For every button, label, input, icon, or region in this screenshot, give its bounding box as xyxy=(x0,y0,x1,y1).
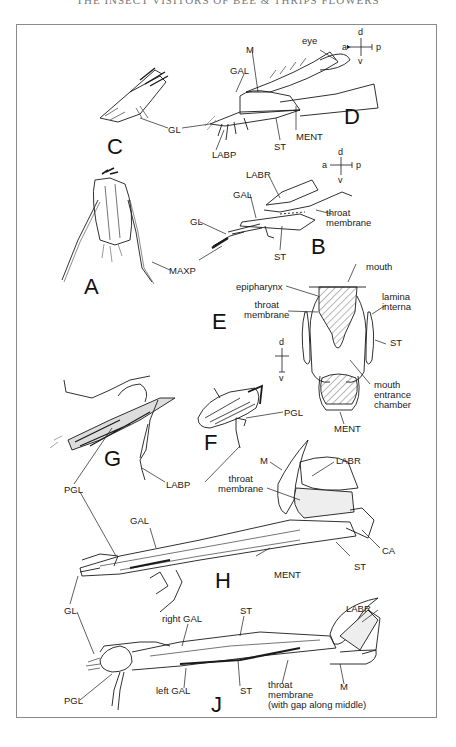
label-b-throat-membrane: throat membrane xyxy=(326,208,371,228)
drawing-c xyxy=(100,68,168,122)
label-h-ca: CA xyxy=(382,546,395,556)
label-d-ment: MENT xyxy=(296,132,323,142)
label-e-throat-membrane: throat membrane xyxy=(244,300,289,320)
panel-letter-d: D xyxy=(344,106,360,128)
label-h-labr: LABR xyxy=(336,456,361,466)
axis-d-e: d xyxy=(279,338,284,347)
label-h-st: ST xyxy=(354,562,366,572)
panel-letter-c: C xyxy=(107,136,123,158)
label-j-pgl: PGL xyxy=(64,696,83,706)
label-a-maxp: MAXP xyxy=(169,266,196,276)
label-d-gal: GAL xyxy=(230,66,249,76)
label-j-st-top: ST xyxy=(240,606,252,616)
label-j-right-gal: right GAL xyxy=(162,614,202,624)
orientation-key-e xyxy=(275,348,289,372)
label-b-gal: GAL xyxy=(233,190,252,200)
label-j-labr: LABR xyxy=(346,604,371,614)
label-g-pgl: PGL xyxy=(64,485,83,495)
axis-p-mid: p xyxy=(356,161,361,170)
orientation-key-d xyxy=(350,38,372,56)
axis-a-mid: a xyxy=(322,161,327,170)
axis-d-mid: d xyxy=(338,148,343,157)
label-e-mouth: mouth xyxy=(366,262,392,272)
label-j-st-bottom: ST xyxy=(240,686,252,696)
panel-letter-e: E xyxy=(212,311,227,333)
panel-letter-b: B xyxy=(311,236,326,258)
label-j-left-gal: left GAL xyxy=(156,686,190,696)
panel-letter-g: G xyxy=(104,448,121,470)
label-d-m: M xyxy=(246,45,254,55)
figure-drawings xyxy=(0,0,456,747)
label-d-st: ST xyxy=(274,142,286,152)
label-f-pgl: PGL xyxy=(284,408,303,418)
drawing-a xyxy=(62,168,154,284)
panel-letter-j: J xyxy=(211,694,222,716)
panel-letter-a: A xyxy=(84,276,99,298)
label-h-ment: MENT xyxy=(274,570,301,580)
label-b-gl: GL xyxy=(190,217,203,227)
label-h-gl: GL xyxy=(64,606,77,616)
label-b-labr: LABR xyxy=(246,170,271,180)
label-e-epipharynx: epipharynx xyxy=(236,282,282,292)
axis-v-e: v xyxy=(279,374,284,383)
label-g-labp: LABP xyxy=(166,480,190,490)
label-h-gal: GAL xyxy=(130,516,149,526)
orientation-key-b xyxy=(330,157,352,175)
label-d-eye: eye xyxy=(302,36,317,46)
panel-letter-f: F xyxy=(204,432,217,454)
label-h-throat-membrane: throat membrane xyxy=(218,474,263,494)
panel-letter-h: H xyxy=(215,570,231,592)
label-c-gl: GL xyxy=(168,125,181,135)
drawing-e xyxy=(302,287,373,410)
axis-p-top: p xyxy=(376,43,381,52)
label-b-st: ST xyxy=(274,252,286,262)
label-e-ment: MENT xyxy=(334,424,361,434)
axis-v-mid: v xyxy=(338,176,343,185)
label-e-lamina-interna: lamina interna xyxy=(382,292,411,312)
label-j-throat-membrane: throat membrane (with gap along middle) xyxy=(268,680,366,710)
axis-v-top: v xyxy=(358,57,363,66)
label-j-m: M xyxy=(340,682,348,692)
label-d-labp: LABP xyxy=(212,150,236,160)
label-e-st: ST xyxy=(390,338,402,348)
axis-a-top: a xyxy=(342,43,347,52)
axis-d-top: d xyxy=(358,28,363,37)
label-e-mouth-entrance-chamber: mouth entrance chamber xyxy=(374,380,411,410)
label-h-m: M xyxy=(260,456,268,466)
